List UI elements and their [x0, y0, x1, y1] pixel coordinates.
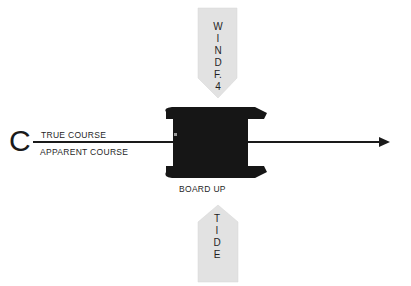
wind-letter: I [211, 33, 225, 45]
wind-letter: 4 [211, 81, 225, 93]
wind-letter: F. [211, 69, 225, 81]
tide-letter: D [210, 237, 224, 249]
tide-letter: I [210, 225, 224, 237]
true-course-label: TRUE COURSE [41, 130, 106, 140]
tide-letter: T [210, 213, 224, 225]
course-arrowhead-icon [379, 137, 390, 147]
wind-letter: D [211, 57, 225, 69]
tide-letter: E [210, 249, 224, 261]
board-up-label: BOARD UP [179, 184, 226, 194]
wind-arrow-text: W I N D F. 4 [211, 21, 225, 93]
tide-arrow-text: T I D E [210, 213, 224, 261]
apparent-course-label: APPARENT COURSE [40, 147, 128, 157]
origin-label: C [9, 126, 31, 156]
boat-pivot-marker [174, 133, 177, 136]
wind-letter: W [211, 21, 225, 33]
diagram-canvas [0, 0, 411, 286]
wind-letter: N [211, 45, 225, 57]
